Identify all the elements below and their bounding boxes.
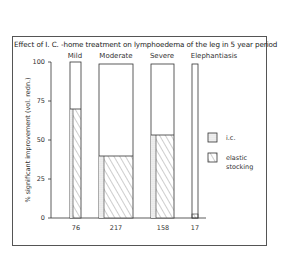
- legend-swatch-elastic-stocking: [208, 153, 217, 162]
- category-moderate: Moderate: [99, 52, 132, 60]
- y-tick-50: 50: [37, 136, 45, 144]
- bar-mild: [70, 62, 81, 218]
- y-tick-0: 0: [41, 214, 45, 222]
- category-elephantiasis: Elephantiasis: [191, 52, 238, 60]
- category-mild: Mild: [68, 52, 82, 60]
- legend-swatch-ic: [208, 133, 217, 142]
- y-tick-75: 75: [37, 97, 45, 105]
- bar-severe: [151, 64, 174, 218]
- bar-elephantiasis: [192, 64, 198, 218]
- y-axis-label: % significant improvement (vol. redn.): [24, 77, 32, 202]
- y-tick-100: 100: [33, 58, 45, 66]
- bar-moderate: [99, 64, 133, 218]
- y-tick-25: 25: [37, 175, 45, 183]
- category-severe: Severe: [150, 52, 174, 60]
- legend: i.c. elastic stocking: [208, 133, 253, 171]
- legend-label-elastic: elastic: [226, 154, 248, 162]
- n-elephantiasis: 17: [191, 224, 199, 232]
- bar-chart: 0 25 50 75 100 % significant improvement…: [0, 0, 283, 260]
- n-severe: 158: [157, 224, 169, 232]
- n-mild: 76: [72, 224, 80, 232]
- legend-label-ic: i.c.: [226, 134, 236, 142]
- y-axis: 0 25 50 75 100 % significant improvement…: [24, 58, 51, 222]
- legend-label-stocking: stocking: [226, 163, 253, 171]
- n-moderate: 217: [110, 224, 122, 232]
